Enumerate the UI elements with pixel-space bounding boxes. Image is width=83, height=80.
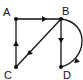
label-d: D [63, 69, 71, 80]
edge-b-c [16, 19, 61, 67]
edge-b-d-curved [61, 19, 82, 67]
arrow-c-a-icon [13, 41, 19, 46]
node-c [14, 65, 18, 69]
arrowheads [13, 16, 80, 63]
arrow-a-b-icon [42, 16, 47, 22]
arrow-b-d-icon [58, 38, 64, 43]
graph-diagram: A B C D [0, 0, 83, 80]
node-b [59, 17, 63, 21]
label-b: B [62, 5, 69, 17]
label-a: A [3, 6, 11, 18]
label-c: C [4, 69, 12, 80]
node-a [14, 17, 18, 21]
